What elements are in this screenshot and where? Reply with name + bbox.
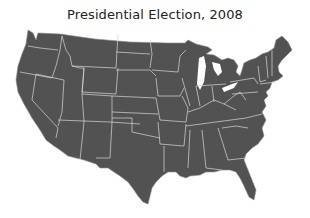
us-election-map	[0, 0, 310, 218]
